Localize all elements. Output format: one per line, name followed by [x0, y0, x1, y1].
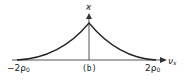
x-tick-subscript: 0 — [156, 66, 160, 73]
panel-label: (b) — [82, 64, 96, 74]
x-tick-text: −2ρ — [7, 63, 26, 73]
x-tick-subscript: 0 — [26, 66, 30, 73]
x-tick-text: 2ρ — [145, 63, 156, 73]
y-axis-arrow-icon — [86, 13, 92, 19]
x-axis-arrow-icon — [160, 57, 167, 63]
curve-line — [17, 23, 156, 60]
x-tick-label-right: 2ρ0 — [145, 63, 160, 75]
x-axis-label: νx — [168, 56, 177, 68]
y-axis-label: ϰ — [86, 3, 91, 13]
x-tick-label-left: −2ρ0 — [7, 63, 30, 75]
x-axis-subscript: x — [173, 59, 177, 66]
